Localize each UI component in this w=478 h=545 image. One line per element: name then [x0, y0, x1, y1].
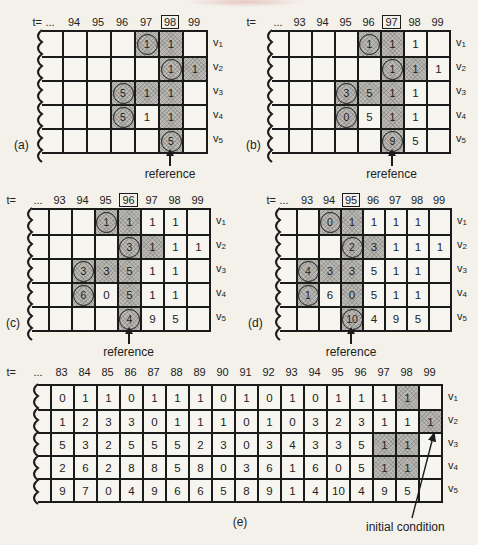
row-label: v5 [213, 126, 223, 150]
column-header-label: 97 [389, 194, 401, 206]
grid-cell: 5 [163, 306, 186, 330]
grid-cell: 4 [349, 478, 372, 501]
grid-cell: 1 [134, 32, 158, 56]
column-header: 94 [303, 360, 326, 384]
grid-cell: 3 [340, 258, 362, 282]
grid-cell: 1 [140, 210, 163, 234]
grid-cell: 1 [280, 455, 303, 478]
column-header: 95 [326, 360, 349, 384]
grid-cell: 4 [119, 478, 142, 501]
grid-cell: 5 [119, 432, 142, 455]
grid-cell: 2 [96, 455, 119, 478]
panel-d: t=...93949596979899011112311143351116051… [246, 192, 478, 374]
grid-cell [428, 258, 450, 282]
grid-cell: 9 [372, 478, 395, 501]
column-header-label: 99 [431, 16, 443, 28]
grid-cell [71, 306, 94, 330]
grid-cell: 1 [73, 386, 96, 409]
row-label: v4 [213, 102, 223, 126]
grid-cell [311, 32, 334, 56]
torn-cell [32, 282, 48, 306]
torn-cell [38, 386, 50, 409]
column-header: 88 [165, 360, 188, 384]
grid-cell: 1 [357, 32, 380, 56]
grid-cell [426, 80, 449, 104]
grid-cell: 0 [211, 455, 234, 478]
grid-cell [311, 128, 334, 152]
row-label: v1 [456, 30, 466, 54]
grid-cell: 3 [318, 258, 340, 282]
column-header: 96 [117, 192, 140, 208]
grid-cell [134, 56, 158, 80]
column-header-label: 97 [145, 194, 157, 206]
timeline-grid: 011112311143351116051110495 [280, 208, 452, 332]
grid-cell [288, 56, 311, 80]
circle-mark: 1 [161, 59, 182, 80]
column-header-label: 93 [285, 366, 297, 378]
grid-cell: 3 [326, 432, 349, 455]
column-header: 99 [418, 360, 441, 384]
grid-cell: 2 [188, 432, 211, 455]
grid-cell [418, 386, 441, 409]
column-header-label: 98 [400, 366, 412, 378]
grid-cell: 1 [163, 282, 186, 306]
grid-cell [110, 56, 134, 80]
grid-cell: 5 [395, 478, 418, 501]
row-label: v2 [216, 232, 226, 256]
reference-label: rerefence [347, 167, 437, 181]
grid-cell: 9 [50, 478, 73, 501]
column-header-label: 96 [362, 16, 374, 28]
column-header-label: 93 [293, 16, 305, 28]
grid-cell: 9 [384, 306, 406, 330]
column-header: 97 [380, 14, 403, 30]
timeline-grid: 111131113351160511495 [32, 208, 211, 332]
grid-cell: 6 [71, 282, 94, 306]
grid-cell: 9 [257, 478, 280, 501]
grid-cell: 1 [280, 386, 303, 409]
grid-cell: 0 [303, 386, 326, 409]
grid-cell: 2 [326, 409, 349, 432]
grid-cell [418, 455, 441, 478]
grid-cell [426, 128, 449, 152]
torn-cell [280, 234, 296, 258]
column-header: 96 [349, 360, 372, 384]
torn-cell [32, 234, 48, 258]
panel-b: t=...939495969798991111113511051195v1v2v… [244, 14, 478, 196]
grid-cell: 5 [117, 258, 140, 282]
grid-cell: 1 [188, 409, 211, 432]
grid-cell: 2 [50, 455, 73, 478]
grid-cell: 2 [96, 432, 119, 455]
column-header-label: 85 [101, 366, 113, 378]
grid-cell: 1 [158, 80, 182, 104]
grid-cell: 0 [280, 409, 303, 432]
grid-cell: 3 [117, 234, 140, 258]
grid-cell [318, 306, 340, 330]
grid-cell: 5 [142, 432, 165, 455]
boxed-column-header: 98 [161, 15, 179, 29]
grid-cell [334, 32, 357, 56]
grid-cell: 1 [428, 234, 450, 258]
circle-mark: 1 [298, 285, 319, 306]
time-axis-label: t= [244, 14, 256, 30]
grid-cell: 0 [96, 478, 119, 501]
column-header: 99 [186, 192, 209, 208]
grid-cell: 5 [165, 432, 188, 455]
ellipsis-label: ... [24, 360, 52, 384]
grid-cell: 8 [119, 455, 142, 478]
grid-cell: 5 [110, 80, 134, 104]
grid-cell: 5 [403, 128, 426, 152]
grid-cell: 1 [426, 56, 449, 80]
column-header: 85 [96, 360, 119, 384]
grid-cell: 0 [142, 409, 165, 432]
column-header-label: 96 [367, 194, 379, 206]
grid-cell: 1 [326, 386, 349, 409]
grid-cell [186, 282, 209, 306]
column-header-label: 94 [316, 16, 328, 28]
grid-cell [311, 56, 334, 80]
torn-cell [32, 210, 48, 234]
grid-cell: 4 [280, 432, 303, 455]
circle-mark: 5 [113, 83, 134, 104]
grid-cell: 1 [117, 210, 140, 234]
column-header-label: 95 [92, 16, 104, 28]
circle-mark: 4 [298, 261, 319, 282]
